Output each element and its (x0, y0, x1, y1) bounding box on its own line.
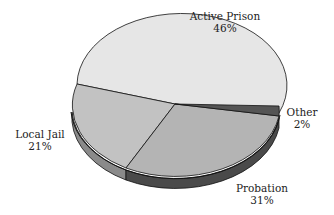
label-active-prison: Active Prison 46% (180, 10, 270, 34)
label-probation: Probation 31% (232, 182, 292, 206)
label-name: Probation (232, 182, 292, 194)
label-pct: 31% (232, 194, 292, 206)
label-pct: 2% (282, 118, 322, 130)
label-name: Local Jail (10, 128, 70, 140)
label-pct: 46% (180, 22, 270, 34)
label-pct: 21% (10, 140, 70, 152)
label-name: Other (282, 106, 322, 118)
label-other: Other 2% (282, 106, 322, 130)
label-local-jail: Local Jail 21% (10, 128, 70, 152)
label-name: Active Prison (180, 10, 270, 22)
